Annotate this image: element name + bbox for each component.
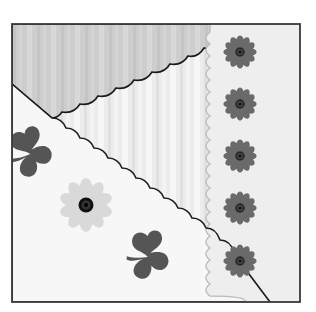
decorative-pattern-artwork	[0, 0, 316, 312]
pattern-layers	[5, 24, 300, 302]
